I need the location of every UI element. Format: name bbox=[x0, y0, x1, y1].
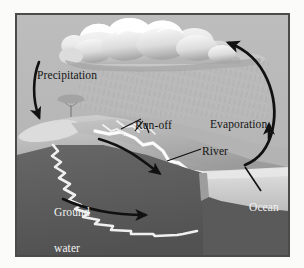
water-cycle-scene bbox=[17, 15, 288, 255]
water-cycle-figure: Precipitation Evaporation Run-off River … bbox=[0, 0, 304, 268]
diagram-frame: Precipitation Evaporation Run-off River … bbox=[15, 13, 290, 257]
